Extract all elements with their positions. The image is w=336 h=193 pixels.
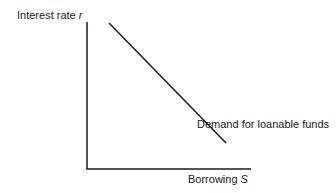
y-axis-label-text: Interest rate	[17, 9, 76, 21]
y-axis-label-symbol: r	[79, 9, 83, 21]
y-axis-label: Interest rate r	[17, 10, 82, 21]
x-axis-label-symbol: S	[241, 173, 248, 185]
x-axis-label: Borrowing S	[188, 174, 248, 185]
demand-curve-label: Demand for loanable funds	[197, 119, 329, 130]
x-axis-label-text: Borrowing	[188, 173, 238, 185]
demand-curve-label-text: Demand for loanable funds	[197, 118, 329, 130]
chart-plot	[0, 0, 336, 193]
